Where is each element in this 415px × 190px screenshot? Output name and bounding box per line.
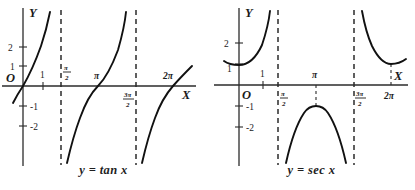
sec-xlabel-pi: π (312, 70, 318, 80)
sec-x-axis-label: X (393, 69, 403, 83)
sec-pi-over-2-denominator: 2 (281, 100, 286, 108)
sec-xlabel-3pi-over-2: 3π 2 (355, 90, 366, 108)
tan-branch-2 (67, 12, 126, 163)
sec-3pi-over-2-numerator: 3π (355, 90, 364, 98)
sec-ylabel-neg2: -2 (246, 123, 254, 133)
sec-ylabel-2: 2 (224, 39, 229, 49)
sec-branch-3 (362, 11, 406, 64)
tan-plot-svg: Y X O 2 1 -1 -2 1 π 2 π 3π 2 (0, 0, 207, 190)
tan-xlabel-1: 1 (40, 70, 45, 80)
tan-ylabel-2: 2 (8, 43, 13, 53)
tan-pi-over-2-denominator: 2 (64, 74, 69, 82)
tan-x-axis-label: X (181, 88, 191, 102)
tan-xlabel-3pi-over-2: 3π 2 (123, 91, 134, 109)
tan-y-axis-label: Y (29, 6, 38, 20)
sec-ylabel-neg1: -1 (246, 102, 254, 112)
sec-xlabel-1: 1 (260, 69, 265, 79)
tan-xlabel-pi: π (94, 71, 100, 81)
tan-3pi-over-2-numerator: 3π (123, 91, 132, 99)
sec-ylabel-1: 1 (227, 64, 232, 74)
tan-ylabel-1: 1 (10, 62, 15, 72)
tan-pi-over-2-numerator: π (64, 64, 68, 72)
panel-sec-graph: Y X O 2 1 -1 -2 1 π 2 π 3π 2 (208, 0, 415, 190)
sec-3pi-over-2-denominator: 2 (357, 100, 362, 108)
tan-origin-label: O (6, 71, 15, 85)
tan-ylabel-neg1: -1 (30, 102, 38, 112)
tan-caption: y = tan x (0, 163, 207, 178)
tan-xlabel-2pi: 2π (162, 71, 174, 81)
sec-y-axis-label: Y (245, 6, 254, 20)
figure-root: Y X O 2 1 -1 -2 1 π 2 π 3π 2 (0, 0, 415, 190)
tan-3pi-over-2-denominator: 2 (125, 101, 130, 109)
sec-caption: y = sec x (208, 163, 415, 178)
sec-plot-svg: Y X O 2 1 -1 -2 1 π 2 π 3π 2 (208, 0, 415, 190)
tan-branch-1 (13, 12, 50, 103)
panel-tan-graph: Y X O 2 1 -1 -2 1 π 2 π 3π 2 (0, 0, 207, 190)
sec-xlabel-pi-over-2: π 2 (280, 90, 288, 108)
sec-pi-over-2-numerator: π (281, 90, 285, 98)
tan-xlabel-pi-over-2: π 2 (63, 64, 71, 82)
sec-xlabel-2pi: 2π (383, 91, 395, 101)
sec-branch-2 (286, 106, 346, 163)
tan-ylabel-neg2: -2 (30, 122, 38, 132)
sec-origin-label: O (242, 88, 251, 102)
